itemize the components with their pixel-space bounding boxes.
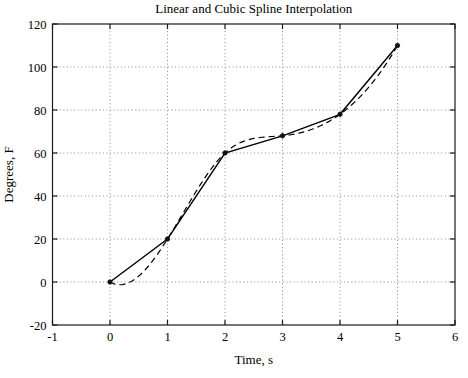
data-point-marker [165, 237, 169, 241]
y-tick-label: -20 [30, 319, 47, 333]
y-tick-label: 40 [34, 190, 47, 204]
linear-interpolation-line [110, 46, 398, 283]
data-point-marker [280, 134, 284, 138]
x-tick-label: 2 [222, 330, 228, 344]
y-tick-label: 0 [40, 276, 46, 290]
y-axis-label: Degrees, F [1, 146, 16, 202]
data-point-marker [395, 43, 399, 47]
y-tick-label: 120 [28, 18, 47, 32]
cubic-spline-line [110, 46, 398, 285]
y-tick-label: 100 [28, 61, 47, 75]
y-tick-label: 80 [34, 104, 47, 118]
x-tick-label: 1 [164, 330, 170, 344]
data-point-marker [223, 151, 227, 155]
x-tick-label: 4 [337, 330, 344, 344]
data-point-marker [108, 280, 112, 284]
x-axis-label: Time, s [234, 352, 273, 367]
chart-title: Linear and Cubic Spline Interpolation [155, 1, 353, 16]
data-point-marker [338, 112, 342, 116]
chart: -10123456-20020406080100120 Linear and C… [0, 0, 468, 378]
data-point-markers [108, 43, 400, 284]
tick-labels: -10123456-20020406080100120 [28, 18, 458, 345]
x-tick-label: 0 [107, 330, 113, 344]
series-lines [110, 46, 398, 285]
x-tick-label: -1 [47, 330, 57, 344]
y-tick-label: 60 [34, 147, 47, 161]
x-tick-label: 6 [452, 330, 458, 344]
y-tick-label: 20 [34, 233, 47, 247]
x-tick-label: 5 [394, 330, 400, 344]
figure: -10123456-20020406080100120 Linear and C… [0, 0, 468, 378]
x-tick-label: 3 [279, 330, 285, 344]
